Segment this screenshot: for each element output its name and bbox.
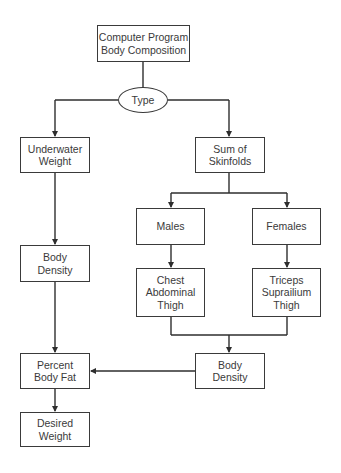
node-type-decision: Type (118, 87, 168, 113)
node-desired-weight: DesiredWeight (20, 412, 90, 447)
node-line: Weight (28, 155, 82, 168)
node-line: Density (37, 264, 72, 277)
node-male-sites: ChestAbdominalThigh (136, 268, 205, 317)
node-line: Suprailium (262, 286, 312, 299)
node-line: Abdominal (146, 286, 196, 299)
node-females: Females (252, 208, 321, 245)
node-line: Body Fat (34, 371, 76, 384)
node-line: Computer Program (99, 31, 188, 44)
node-line: Underwater (28, 143, 82, 156)
node-males: Males (136, 208, 205, 245)
node-body-density-right: BodyDensity (195, 353, 265, 389)
node-line: Males (156, 220, 184, 233)
node-line: Skinfolds (209, 155, 252, 168)
node-line: Thigh (146, 299, 196, 312)
node-line: Desired (37, 417, 73, 430)
node-underwater-weight: UnderwaterWeight (20, 137, 90, 173)
node-line: Females (266, 220, 306, 233)
node-body-density-left: BodyDensity (20, 245, 90, 282)
node-line: Type (132, 94, 155, 107)
node-line: Body (212, 359, 247, 372)
node-computer-program: Computer ProgramBody Composition (97, 25, 190, 62)
node-line: Triceps (262, 274, 312, 287)
node-sum-of-skinfolds: Sum ofSkinfolds (195, 137, 265, 173)
node-percent-body-fat: PercentBody Fat (20, 353, 90, 389)
node-line: Body Composition (99, 44, 188, 57)
node-line: Thigh (262, 299, 312, 312)
node-line: Weight (37, 430, 73, 443)
node-female-sites: TricepsSuprailiumThigh (252, 268, 321, 317)
node-line: Chest (146, 274, 196, 287)
node-line: Percent (34, 359, 76, 372)
node-line: Density (212, 371, 247, 384)
node-line: Body (37, 251, 72, 264)
node-line: Sum of (209, 143, 252, 156)
